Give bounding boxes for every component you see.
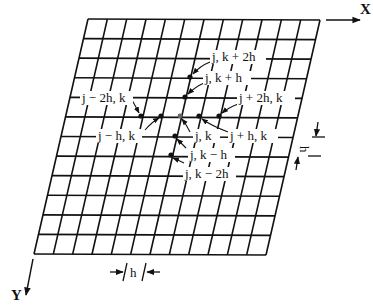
label-k-plus-2h: j, k + 2h [211,49,256,64]
node-j-plus-2h [216,113,221,118]
arrow-down-icon [316,122,318,136]
y-axis-arrow-icon [26,259,33,295]
vertical-spacing-marker: h [296,122,325,170]
node-k-plus-2h [187,74,192,79]
label-j-minus-h: j − h, k [97,128,135,143]
horizontal-spacing-label: h [130,265,137,280]
stencil-nodes [138,74,221,157]
node-j-plus-h [196,113,201,118]
node-k-minus-2h [168,152,173,157]
node-center [178,114,183,119]
label-center: j, k [194,128,212,143]
label-k-minus-h: j, k − h [189,147,227,162]
x-axis: X [326,1,371,20]
label-j-minus-2h: j − 2h, k [81,90,126,105]
arrow-up-icon [296,157,298,170]
node-j-minus-2h [138,113,143,118]
x-axis-label: X [360,1,371,17]
node-labels: j, k + 2h j, k + h j − 2h, k j + 2h, k j… [80,49,295,181]
node-k-plus-h [182,94,187,99]
label-k-plus-h: j, k + h [204,70,242,85]
horizontal-spacing-marker: h [110,263,160,281]
node-k-minus-h [172,133,177,138]
y-axis-label: Y [11,287,22,303]
label-k-minus-2h: j, k − 2h [184,166,229,181]
label-j-plus-h: j + h, k [229,128,267,143]
grid-diagram: X Y h h [0,0,373,307]
label-j-plus-2h: j + 2h, k [238,90,283,105]
y-axis: Y [11,259,33,303]
vertical-spacing-label: h [297,146,312,153]
node-j-minus-h [158,113,163,118]
